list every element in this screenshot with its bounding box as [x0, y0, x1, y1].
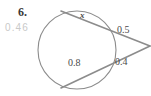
label-unknown-segment-x: x	[80, 10, 85, 21]
circle-shape	[38, 11, 116, 89]
label-upper-external-segment: 0.5	[117, 24, 130, 35]
upper-secant-line	[61, 11, 150, 46]
geometry-problem-figure: 6. 0.46 x 0.5 0.8 0.4	[0, 0, 151, 96]
label-lower-chord: 0.8	[68, 57, 81, 68]
label-lower-external-segment: 0.4	[115, 56, 128, 67]
circle-secant-diagram	[0, 0, 151, 96]
